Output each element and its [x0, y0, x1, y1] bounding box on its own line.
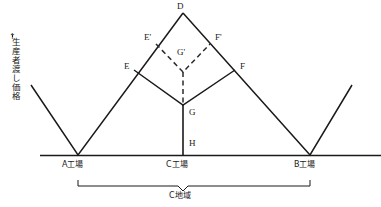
diagram-svg [0, 0, 381, 207]
y-axis-label: 生産者渡し価格 [7, 38, 19, 101]
point-label-g: G [189, 108, 196, 117]
curve-plant-c [134, 70, 235, 105]
point-label-e-prime: E' [144, 33, 151, 42]
point-label-d: D [177, 2, 184, 11]
curve-plant-b [183, 13, 352, 155]
ground-label-plant-a: A工場 [62, 161, 83, 169]
ground-label-plant-c: C工場 [166, 161, 188, 169]
point-label-h: H [189, 139, 196, 148]
ground-label-plant-b: B工場 [294, 161, 316, 169]
point-label-f: F [240, 62, 245, 71]
point-label-g-prime: G' [177, 48, 185, 57]
curve-plant-a [31, 13, 183, 155]
region-label: C地域 [169, 192, 191, 200]
region-bracket [78, 180, 310, 186]
price-schedule-diagram: ↑ 生産者渡し価格 D E' F' G' E F G H A工場 C工場 B工場… [0, 0, 381, 207]
point-label-f-prime: F' [215, 33, 222, 42]
point-label-e: E [124, 62, 130, 71]
